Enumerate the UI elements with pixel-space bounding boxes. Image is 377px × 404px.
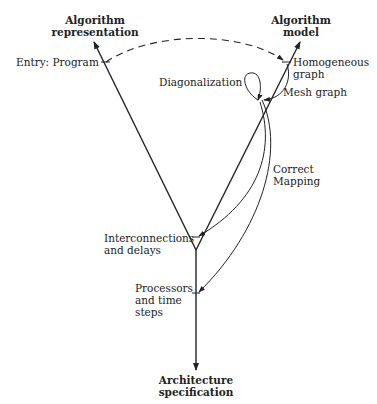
label-line: Homogeneous (293, 56, 369, 68)
entry-program-label: Entry: Program (16, 56, 99, 68)
diagonalization-label: Diagonalization (159, 76, 242, 88)
label-line: Correct (273, 163, 320, 175)
label-line: and delays (104, 244, 194, 256)
algorithm-representation-label: Algorithm representation (45, 14, 145, 38)
architecture-specification-label: Architecture specification (146, 374, 246, 398)
processors-label: Processors and time steps (135, 282, 193, 318)
label-line: Algorithm (266, 14, 336, 26)
label-line: steps (135, 306, 193, 318)
label-line: and time (135, 294, 193, 306)
correct-mapping-label: Correct Mapping (273, 163, 320, 187)
mapping-to-interconnections-arc (199, 102, 265, 236)
label-line: representation (45, 26, 145, 38)
algorithm-representation-axis (94, 42, 196, 250)
label-line: Processors (135, 282, 193, 294)
mesh-graph-label: Mesh graph (283, 86, 347, 98)
mapping-to-processors-arc (199, 100, 271, 292)
algorithm-model-label: Algorithm model (266, 14, 336, 38)
label-line: model (266, 26, 336, 38)
label-line: graph (293, 68, 369, 80)
label-line: Architecture (146, 374, 246, 386)
dashed-transformation-arc (106, 38, 283, 62)
homogeneous-graph-label: Homogeneous graph (293, 56, 369, 80)
diagonalization-loop (245, 73, 261, 100)
label-line: Interconnections (104, 232, 194, 244)
label-line: Mapping (273, 175, 320, 187)
label-line: Algorithm (45, 14, 145, 26)
interconnections-label: Interconnections and delays (104, 232, 194, 256)
label-line: specification (146, 386, 246, 398)
